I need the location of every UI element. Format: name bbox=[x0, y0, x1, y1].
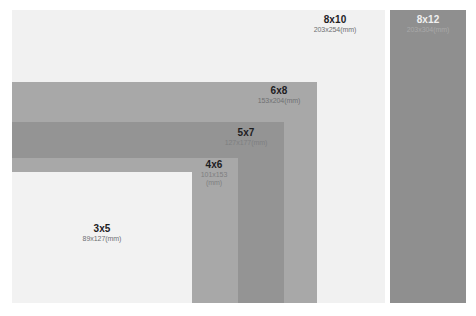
label-8x12: 8x12203x304(mm) bbox=[390, 14, 466, 34]
label-dims-3x5: 89x127(mm) bbox=[64, 235, 140, 243]
label-size-3x5: 3x5 bbox=[64, 223, 140, 235]
label-size-8x10: 8x10 bbox=[297, 14, 373, 26]
label-dims2-4x6: (mm) bbox=[190, 179, 238, 187]
label-dims-8x12: 203x304(mm) bbox=[390, 26, 466, 34]
label-dims-8x10: 203x254(mm) bbox=[297, 26, 373, 34]
label-6x8: 6x8153x204(mm) bbox=[241, 85, 317, 105]
label-dims-4x6: 101x153 bbox=[190, 171, 238, 179]
label-5x7: 5x7127x177(mm) bbox=[208, 127, 284, 147]
label-8x10: 8x10203x254(mm) bbox=[297, 14, 373, 34]
label-size-4x6: 4x6 bbox=[190, 159, 238, 171]
rect-8x12 bbox=[390, 10, 466, 303]
label-3x5: 3x589x127(mm) bbox=[64, 223, 140, 243]
label-dims-5x7: 127x177(mm) bbox=[208, 139, 284, 147]
label-4x6: 4x6101x153(mm) bbox=[190, 159, 238, 187]
label-dims-6x8: 153x204(mm) bbox=[241, 97, 317, 105]
label-size-5x7: 5x7 bbox=[208, 127, 284, 139]
label-size-6x8: 6x8 bbox=[241, 85, 317, 97]
print-size-comparison-chart: 8x10203x254(mm)8x12203x304(mm)6x8153x204… bbox=[0, 0, 476, 316]
label-size-8x12: 8x12 bbox=[390, 14, 466, 26]
